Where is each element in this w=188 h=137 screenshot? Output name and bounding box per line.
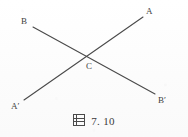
geometry-figure: A B C A′ B′ 图 7. 10 bbox=[0, 0, 188, 137]
vertex-label-c: C bbox=[86, 62, 92, 71]
vertex-label-a-prime: A′ bbox=[11, 102, 19, 111]
line-segment-a-aprime bbox=[24, 17, 143, 100]
caption-cjk-character: 图 bbox=[73, 114, 85, 126]
vertex-label-b-prime: B′ bbox=[158, 96, 166, 105]
figure-caption: 图 7. 10 bbox=[0, 114, 188, 127]
line-segment-b-bprime bbox=[33, 27, 155, 94]
caption-number: 7. 10 bbox=[91, 115, 115, 127]
vertex-label-b: B bbox=[21, 17, 27, 26]
vertex-label-a: A bbox=[146, 7, 153, 16]
